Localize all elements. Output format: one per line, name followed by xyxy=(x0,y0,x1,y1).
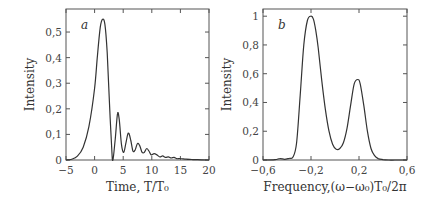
x-axis-label: Time, T/T₀ xyxy=(106,180,169,194)
y-tick-label: 0,8 xyxy=(242,39,259,51)
x-tick-label: 5 xyxy=(120,164,127,176)
y-tick-label: 0,2 xyxy=(45,103,62,115)
axis-ticks: −50510152000,10,20,30,40,5 xyxy=(45,9,215,176)
y-tick-label: 1 xyxy=(252,10,259,22)
x-tick-label: 10 xyxy=(145,164,158,176)
panel-label: a xyxy=(81,18,88,32)
figure: −50510152000,10,20,30,40,5 a Time, T/T₀ … xyxy=(0,0,432,209)
y-tick-label: 0 xyxy=(55,154,62,166)
x-tick-label: 0 xyxy=(91,164,98,176)
x-tick-label: 20 xyxy=(202,164,215,176)
chart-time-domain: −50510152000,10,20,30,40,5 a Time, T/T₀ … xyxy=(23,9,216,194)
x-tick-label: 15 xyxy=(174,164,187,176)
y-tick-label: 0,5 xyxy=(45,26,62,38)
y-tick-label: 0,3 xyxy=(45,77,62,89)
intensity-curve xyxy=(66,19,209,160)
axis-ticks: −0,6−0,20,20,600,20,40,60,81 xyxy=(242,9,415,176)
panel-label: b xyxy=(278,18,286,32)
y-tick-label: 0,1 xyxy=(45,128,62,140)
y-axis-label: Intensity xyxy=(23,57,37,111)
x-tick-label: 0,2 xyxy=(351,164,368,176)
y-tick-label: 0,4 xyxy=(45,52,62,64)
y-axis-label: Intensity xyxy=(220,57,234,111)
y-tick-label: 0,2 xyxy=(242,125,259,137)
y-tick-label: 0,6 xyxy=(242,68,259,80)
x-tick-label: 0,6 xyxy=(399,164,416,176)
spectrum-curve xyxy=(263,16,407,160)
x-tick-label: −0,2 xyxy=(298,164,324,176)
y-tick-label: 0 xyxy=(252,154,259,166)
x-axis-label: Frequency,(ω−ω₀)T₀/2π xyxy=(263,180,406,194)
y-tick-label: 0,4 xyxy=(242,96,259,108)
chart-frequency-domain: −0,6−0,20,20,600,20,40,60,81 b Frequency… xyxy=(220,9,416,194)
